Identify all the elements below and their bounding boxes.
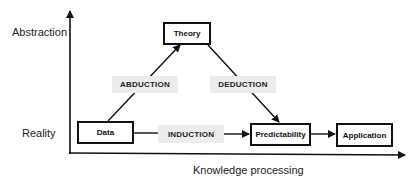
reality-label: Reality <box>22 127 56 139</box>
knowledge-processing-label: Knowledge processing <box>193 164 304 176</box>
induction-label: INDUCTION <box>158 125 224 143</box>
predictability-node: Predictability <box>250 123 311 146</box>
data-node: Data <box>77 121 134 144</box>
abduction-label: ABDUCTION <box>112 76 178 93</box>
application-node: Application <box>336 123 393 147</box>
theory-node: Theory <box>163 22 211 45</box>
deduction-label: DEDUCTION <box>210 76 276 93</box>
abstraction-label: Abstraction <box>12 26 67 38</box>
x-axis <box>69 153 405 155</box>
